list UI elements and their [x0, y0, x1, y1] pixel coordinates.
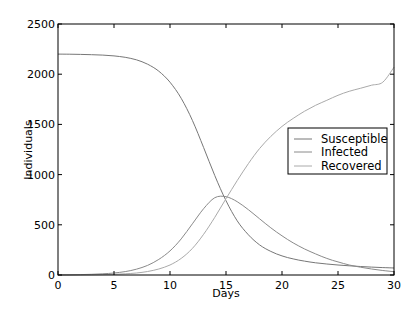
x-tick-label: 30 — [387, 279, 401, 292]
y-tick-label: 2000 — [27, 68, 55, 81]
legend: Susceptible Infected Recovered — [288, 128, 388, 174]
x-tick-label: 5 — [111, 279, 118, 292]
y-axis-label: Individuals — [22, 120, 35, 180]
y-tick-label: 2500 — [27, 18, 55, 31]
y-tick-label: 500 — [34, 219, 55, 232]
legend-label-susceptible: Susceptible — [321, 132, 388, 146]
sir-chart: 05001000150020002500 051015202530 Days I… — [0, 0, 418, 313]
x-tick-label: 10 — [163, 279, 177, 292]
legend-label-infected: Infected — [321, 145, 368, 159]
legend-label-recovered: Recovered — [321, 159, 382, 173]
x-tick-label: 20 — [275, 279, 289, 292]
series-line-infected — [58, 196, 394, 275]
x-tick-label: 0 — [55, 279, 62, 292]
x-tick-label: 25 — [331, 279, 345, 292]
x-axis-label: Days — [212, 287, 240, 300]
